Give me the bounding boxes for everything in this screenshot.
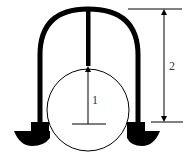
dimension-2-label: 2 — [169, 59, 175, 73]
diagram-canvas: 1 2 — [0, 0, 193, 161]
diagram-svg: 1 2 — [0, 0, 193, 161]
center-rod — [86, 8, 91, 66]
dimension-1-label: 1 — [92, 93, 98, 107]
right-foot — [127, 122, 160, 146]
left-foot — [14, 122, 50, 146]
